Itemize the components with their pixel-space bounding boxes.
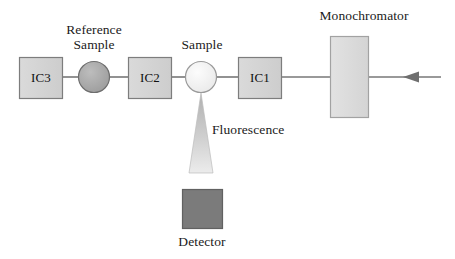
reference-sample-node bbox=[79, 62, 110, 93]
monochromator-label: Monochromator bbox=[319, 8, 408, 23]
ic3-label: IC3 bbox=[31, 70, 51, 86]
detector-label: Detector bbox=[178, 234, 225, 249]
sample-label: Sample bbox=[181, 37, 222, 52]
detector-box bbox=[183, 190, 223, 229]
ic1-label: IC1 bbox=[250, 70, 270, 86]
reference-sample-label-line2: Sample bbox=[73, 37, 114, 52]
reference-sample-label-line1: Reference bbox=[66, 22, 122, 37]
fluorescence-label: Fluorescence bbox=[212, 122, 284, 137]
beam-direction-arrow-icon bbox=[403, 72, 419, 83]
ic2-label: IC2 bbox=[140, 70, 160, 86]
sample-node bbox=[186, 62, 217, 93]
monochromator-box bbox=[331, 37, 369, 118]
fluorescence-cone bbox=[189, 93, 213, 173]
beamline-diagram: IC3 IC2 IC1 Reference Sample Sample Mono… bbox=[0, 0, 455, 259]
